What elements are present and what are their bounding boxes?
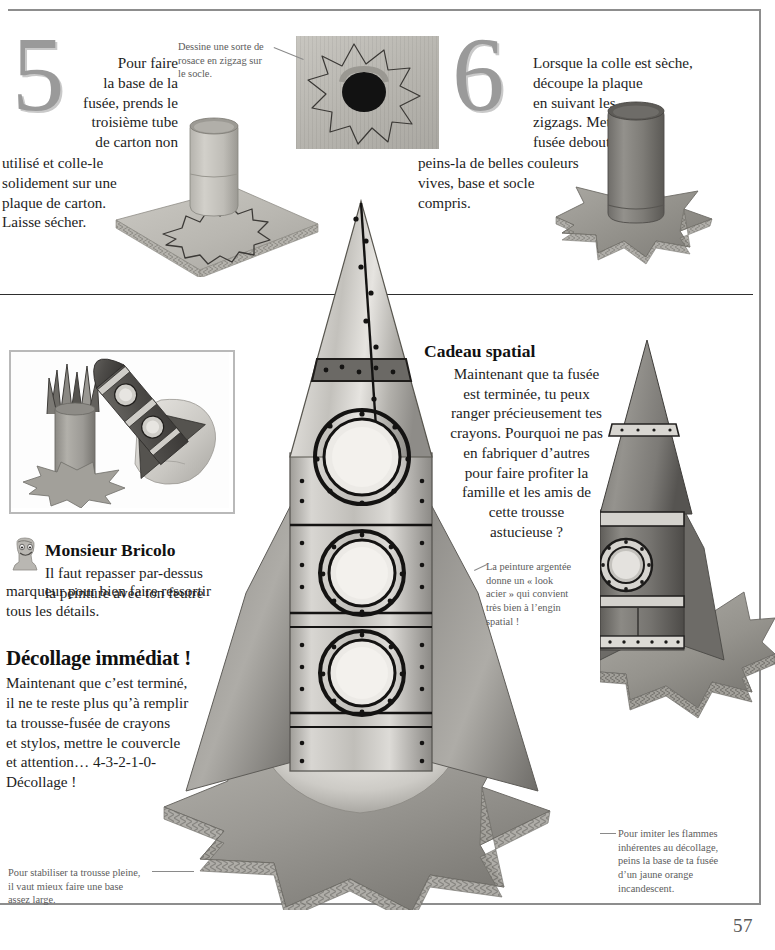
photo-zigzag-detail [296, 36, 439, 149]
caption-silver-line-1: donne un « look [486, 574, 602, 588]
caption-flammes-line-0: Pour imiter les flammes [618, 827, 753, 841]
page-number: 57 [733, 915, 753, 937]
caption-flammes-line-1: inhérentes au décollage, [618, 841, 753, 855]
caption-rosace-line-1: rosace en zigzag sur [178, 54, 293, 68]
caption-rosace: Dessine une sorte de rosace en zigzag su… [178, 40, 293, 81]
caption-silver-line-4: spatial ! [486, 615, 602, 629]
caption-base-line-0: Pour stabiliser ta trousse pleine, [8, 866, 183, 880]
main-rocket-illustration [150, 195, 570, 910]
caption-peinture-argentee: La peinture argentée donne un « look aci… [486, 560, 602, 629]
caption-silver-line-0: La peinture argentée [486, 560, 602, 574]
caption-silver-line-2: acier » qui convient [486, 587, 602, 601]
step6-line-0: Lorsque la colle est sèche, [533, 53, 738, 73]
book-page: 5 Pour faire la base de la fusée, prends… [0, 0, 775, 950]
caption-flammes-line-2: peins la base de ta fusée [618, 854, 753, 868]
bricolo-head-icon [10, 536, 40, 572]
caption-base-line-2: assez large. [8, 893, 183, 907]
caption-flammes-line-4: incandescent. [618, 882, 753, 896]
page-frame-top-rule [8, 9, 760, 11]
caption-base-large: Pour stabiliser ta trousse pleine, il va… [8, 866, 183, 907]
caption-base-line-1: il vaut mieux faire une base [8, 880, 183, 894]
zigzag-detail-illustration [296, 36, 439, 149]
caption-silver-line-3: très bien à l’engin [486, 601, 602, 615]
step5-line-1: la base de la [18, 73, 178, 93]
photo-main-silver-rocket [150, 195, 570, 910]
photo-painted-rocket-right [600, 330, 775, 730]
caption-flammes-line-3: d’un jaune orange [618, 868, 753, 882]
right-rocket-illustration [600, 330, 775, 730]
monsieur-bricolo-avatar [10, 536, 40, 572]
step5-line-0: Pour faire [18, 53, 178, 73]
leader-line-flammes [600, 833, 616, 834]
step-number-6: 6 [452, 32, 505, 118]
caption-rosace-line-2: le socle. [178, 67, 293, 81]
caption-flammes: Pour imiter les flammes inhérentes au dé… [618, 827, 753, 896]
